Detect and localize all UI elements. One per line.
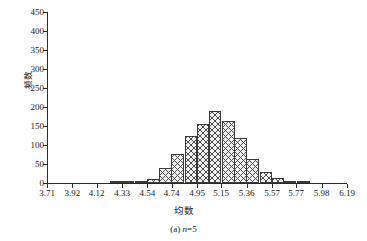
histogram-figure: 频数 050100150200250300350400450 3.713.924… (0, 0, 367, 241)
x-axis-tick-label: 3.71 (39, 188, 55, 198)
caption-suffix: =5 (187, 224, 197, 234)
x-axis-tick-label: 4.54 (140, 188, 156, 198)
x-axis-tick-label: 3.92 (65, 188, 81, 198)
x-axis-tick-label: 5.36 (239, 188, 255, 198)
x-axis-tick-label: 5.15 (213, 188, 229, 198)
x-axis-tick-label: 5.77 (288, 188, 304, 198)
x-axis-tick-label: 4.12 (89, 188, 105, 198)
x-axis-tick-label: 5.98 (314, 188, 330, 198)
x-axis-tick-label: 4.74 (164, 188, 180, 198)
x-axis-tick-label: 5.57 (264, 188, 280, 198)
x-axis-label: 均数 (0, 203, 367, 217)
figure-caption: (a) n=5 (0, 224, 367, 234)
caption-prefix: (a) (170, 224, 182, 234)
x-axis-tick-label: 4.33 (114, 188, 130, 198)
x-axis-tick-label: 4.95 (189, 188, 205, 198)
x-axis-tick-label: 6.19 (339, 188, 355, 198)
